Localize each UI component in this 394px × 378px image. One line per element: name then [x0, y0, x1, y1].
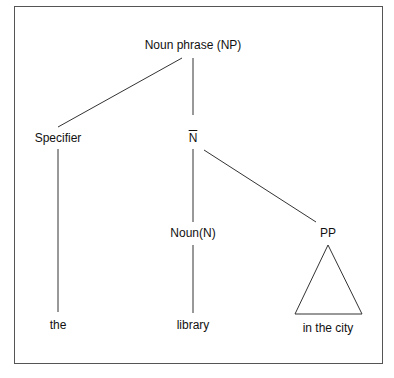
node-noun: Noun(N) [170, 226, 215, 240]
leaf-library: library [177, 318, 210, 332]
node-pp: PP [320, 226, 336, 240]
edge-np-specifier [58, 58, 182, 127]
pp-triangle [295, 245, 362, 314]
node-specifier: Specifier [35, 131, 82, 145]
node-noun-phrase: Noun phrase (NP) [145, 38, 242, 52]
leaf-in-the-city: in the city [303, 321, 354, 335]
edge-nbar-pp [204, 150, 316, 222]
leaf-the: the [50, 318, 67, 332]
node-n-bar: N [189, 131, 198, 145]
